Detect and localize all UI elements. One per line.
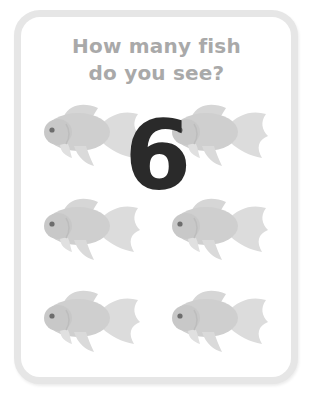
answer-number: 6 xyxy=(118,108,198,204)
question-line-1: How many fish xyxy=(0,33,313,60)
question-text: How many fish do you see? xyxy=(0,33,313,87)
goldfish-icon xyxy=(38,286,148,358)
question-line-2: do you see? xyxy=(0,60,313,87)
goldfish-icon xyxy=(166,286,276,358)
